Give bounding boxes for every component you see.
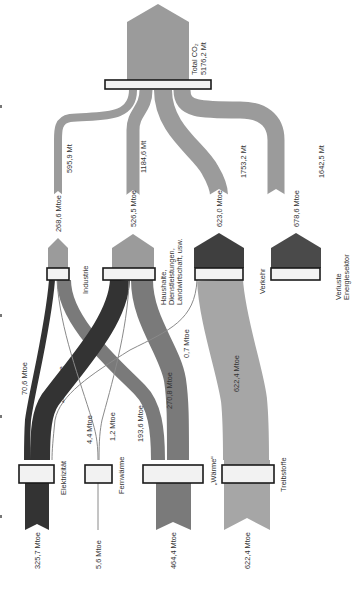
co2-total-label-line2: 5176,2 Mt <box>199 42 208 75</box>
link-value-verkehr-elektrizitaet: 0,7 Mtoe <box>182 329 191 358</box>
waerme-label: „Wärme“ <box>209 456 218 485</box>
co2-source-node <box>127 4 189 84</box>
haushalte-box <box>103 268 155 280</box>
link-value-industrie-waerme: 193,6 Mtoe <box>136 405 145 442</box>
link-value-haushalte-waerme: 270,8 Mtoe <box>165 372 174 409</box>
elektrizitaet-total: 325,7 Mtoe <box>33 532 42 569</box>
treibstoffe-box <box>222 465 274 483</box>
industrie-energy: 268,6 Mtoe <box>54 195 63 232</box>
co2-flow-industrie <box>58 90 133 195</box>
elektrizitaet-label: Elektrizität <box>59 461 68 495</box>
link-value-industrie-elektrizitaet: 70,6 Mtoe <box>20 362 29 395</box>
verluste-arrow <box>271 233 321 268</box>
co2-value-haushalte: 1184,6 Mt <box>139 141 148 173</box>
co2-total-box <box>105 80 211 89</box>
fernwaerme-label: Fernwärme <box>117 457 126 494</box>
co2-flows <box>58 90 276 195</box>
treibstoffe-total: 622,4 Mtoe <box>243 532 252 569</box>
link-value-haushalte-fernwaerme: 1,2 Mtoe <box>108 412 117 441</box>
verluste-box <box>271 268 320 280</box>
link-value-verkehr-treibstoffe: 622,4 Mtoe <box>232 355 241 392</box>
treibstoffe-label: Treibstoffe <box>279 457 288 492</box>
verkehr-box <box>195 268 243 280</box>
elektrizitaet-box <box>19 465 54 483</box>
co2-value-industrie: 595,9 Mt <box>65 144 74 173</box>
haushalte-arrow <box>112 234 154 268</box>
verkehr-label: Verkehr <box>258 268 267 294</box>
co2-source-arrow <box>127 4 189 84</box>
fernwaerme-total: 5,6 Mtoe <box>94 540 103 569</box>
sankey-diagram: Total CO₂ 5176,2 Mt 595,9 Mt 1184,6 Mt 1… <box>0 0 352 595</box>
sector-arrows <box>48 233 321 268</box>
verluste-label-line2: Energiesektor <box>342 254 351 300</box>
co2-value-verluste: 1642,5 Mt <box>317 145 326 178</box>
verkehr-arrow <box>194 233 244 268</box>
left-edge-marks <box>0 105 2 518</box>
haushalte-energy: 526,5 Mtoe <box>129 190 138 227</box>
verkehr-energy: 623,0 Mtoe <box>215 190 224 227</box>
industrie-arrow <box>48 238 68 268</box>
link-value-haushalte-elektrizitaet: 254,5 Mtoe <box>57 366 66 403</box>
fernwaerme-box <box>85 465 112 483</box>
co2-total-label-line1: Total CO₂ <box>190 43 199 75</box>
verluste-energy: 678,6 Mtoe <box>292 190 301 227</box>
link-value-industrie-fernwaerme: 4,4 Mtoe <box>85 415 94 444</box>
haushalte-label-line3: Landwirtschaft, usw. <box>175 238 184 305</box>
co2-flow-tails <box>53 189 286 195</box>
industrie-label: Industrie <box>81 266 90 294</box>
waerme-total: 464,4 Mtoe <box>169 532 178 569</box>
waerme-box <box>143 465 203 483</box>
co2-value-verkehr: 1753,2 Mt <box>239 145 248 178</box>
industrie-box <box>47 268 69 280</box>
